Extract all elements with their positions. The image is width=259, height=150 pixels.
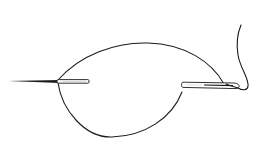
thread-lower-arc xyxy=(58,83,182,137)
thread-upper-arc xyxy=(58,43,224,84)
thread-tail xyxy=(226,25,248,90)
needle-thread-diagram xyxy=(0,0,259,150)
illustration-canvas: Needle and thread stitch illustration xyxy=(0,0,259,150)
left-needle-icon xyxy=(8,80,89,84)
